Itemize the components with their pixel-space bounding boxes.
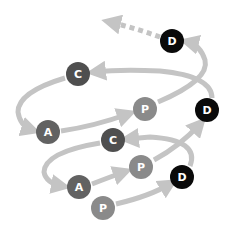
node-check-2: C [66, 62, 90, 86]
node-do-1: D [170, 165, 194, 189]
svg-text:C: C [74, 68, 82, 81]
node-do-3: D [160, 29, 184, 53]
pdca-spiral-diagram: P D C A P D C A [0, 0, 231, 233]
svg-text:P: P [141, 103, 149, 116]
arrow-p1-d1 [116, 184, 170, 204]
arrow-a2-p3 [61, 114, 128, 131]
svg-text:D: D [177, 171, 186, 184]
node-plan-2: P [129, 155, 153, 179]
svg-text:P: P [99, 202, 107, 215]
arrow-continuation-dotted [110, 22, 160, 37]
arrow-a1-p2 [92, 172, 124, 184]
svg-text:C: C [109, 134, 117, 147]
svg-text:A: A [44, 126, 53, 139]
svg-text:P: P [137, 161, 145, 174]
node-do-2: D [195, 98, 219, 122]
node-check-1: C [101, 128, 125, 152]
node-plan-1: P [91, 196, 115, 220]
nodes: P D C A P D C A [36, 29, 219, 220]
svg-text:D: D [202, 104, 211, 117]
svg-text:A: A [75, 181, 84, 194]
node-act-1: A [67, 175, 91, 199]
node-act-2: A [36, 120, 60, 144]
svg-text:D: D [167, 35, 176, 48]
node-plan-3: P [133, 97, 157, 121]
